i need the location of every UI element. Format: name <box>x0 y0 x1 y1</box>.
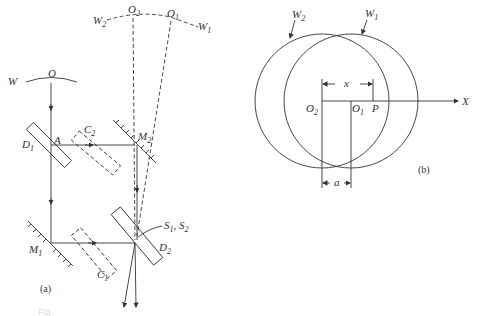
dashed-o1 <box>137 21 171 236</box>
label-d1: D1 <box>21 138 34 153</box>
label-m2: M2 <box>137 130 151 145</box>
figure-caption: Fig. <box>38 307 53 316</box>
label-m1: M1 <box>28 243 42 258</box>
label-w1-b: W1 <box>365 7 378 22</box>
label-a-dim: a <box>334 176 340 188</box>
interferometer-figure: W O W2 O2 O1 W1 D1 A C2 M2 M1 C1 D2 S1, … <box>0 0 477 316</box>
wavefront-w1-w2 <box>107 14 198 27</box>
label-x-axis: X <box>461 95 470 107</box>
output-beam-1 <box>124 243 135 307</box>
label-o2: O2 <box>128 3 140 18</box>
w1-leader <box>362 20 367 34</box>
compensator-c1 <box>71 228 116 279</box>
label-x-dim: x <box>343 77 349 89</box>
panel-label-b: (b) <box>418 164 430 176</box>
label-o2-b: O2 <box>306 102 318 117</box>
label-s1-s2: S1, S2 <box>164 219 189 234</box>
panel-label-a: (a) <box>40 283 51 295</box>
output-beam-2 <box>135 243 136 307</box>
label-a: A <box>53 134 61 146</box>
w2-leader <box>290 20 295 38</box>
label-o: O <box>48 67 56 79</box>
dashed-o2 <box>133 18 135 240</box>
panel-b: W2 W1 x O2 O1 P X a (b) <box>255 7 470 188</box>
compensator-c2 <box>71 131 120 175</box>
label-c1: C1 <box>97 268 108 283</box>
label-w2-b: W2 <box>292 8 305 23</box>
label-c2: C2 <box>84 123 95 138</box>
label-p: P <box>371 102 379 114</box>
label-w: W <box>8 75 18 87</box>
panel-a: W O W2 O2 O1 W1 D1 A C2 M2 M1 C1 D2 S1, … <box>8 3 211 307</box>
label-w1: W1 <box>198 20 211 35</box>
label-w2: W2 <box>93 14 106 29</box>
label-o1: O1 <box>167 7 179 22</box>
label-o1-b: O1 <box>352 102 364 117</box>
